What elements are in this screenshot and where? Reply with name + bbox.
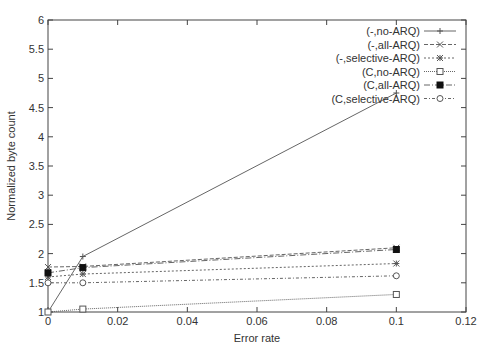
y-tick-label: 3 [38, 189, 44, 201]
x-tick-label: 0.04 [177, 315, 198, 327]
y-tick-label: 2 [38, 248, 44, 260]
legend-label: (-,all-ARQ) [367, 39, 420, 51]
series-c-no-arq [45, 291, 399, 315]
y-axis-label: Normalized byte count [5, 111, 17, 220]
x-tick-label: 0.12 [455, 315, 476, 327]
series-c-selective-arq [45, 273, 399, 286]
x-tick-label: 0.08 [316, 315, 337, 327]
legend-entry: (-,selective-ARQ) [336, 52, 456, 64]
y-tick-label: 6 [38, 14, 44, 26]
y-tick-label: 4.5 [29, 102, 44, 114]
y-tick-label: 5.5 [29, 43, 44, 55]
legend-label: (-,no-ARQ) [366, 25, 420, 37]
legend-entry: (C,no-ARQ) [362, 66, 456, 78]
x-tick-label: 0 [45, 315, 51, 327]
legend-entry: (-,no-ARQ) [366, 25, 456, 37]
legend-label: (-,selective-ARQ) [336, 52, 420, 64]
y-tick-label: 1.5 [29, 277, 44, 289]
y-tick-label: 3.5 [29, 160, 44, 172]
y-tick-label: 2.5 [29, 218, 44, 230]
series-c-all-arq [45, 247, 399, 276]
line-chart: 11.522.533.544.555.5600.020.040.060.080.… [0, 0, 479, 348]
legend-label: (C,no-ARQ) [362, 66, 420, 78]
legend-label: (C,selective-ARQ) [331, 93, 420, 105]
legend-entry: (C,all-ARQ) [363, 79, 456, 91]
y-tick-label: 1 [38, 306, 44, 318]
x-tick-label: 0.1 [389, 315, 404, 327]
legend-label: (C,all-ARQ) [363, 79, 420, 91]
y-tick-label: 5 [38, 72, 44, 84]
x-axis-label: Error rate [234, 332, 280, 344]
x-tick-label: 0.02 [107, 315, 128, 327]
legend-entry: (-,all-ARQ) [367, 39, 456, 51]
x-tick-label: 0.06 [246, 315, 267, 327]
legend-entry: (C,selective-ARQ) [331, 93, 456, 105]
y-tick-label: 4 [38, 131, 44, 143]
series-no-arq [45, 90, 399, 315]
